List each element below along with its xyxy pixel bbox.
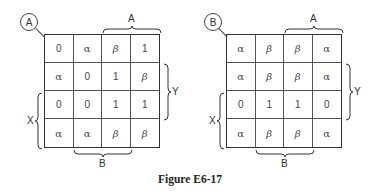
- kmap-cell: β: [284, 63, 313, 91]
- map-a-top-label: A: [128, 13, 135, 24]
- kmap-cell: α: [313, 35, 342, 63]
- kmap-cell: 0: [74, 63, 103, 91]
- kmap-cell: 0: [227, 91, 256, 119]
- map-a-right-brace: [163, 63, 171, 121]
- kmap-cell: β: [256, 119, 285, 147]
- kmap-cell: 1: [131, 91, 160, 119]
- map-b-top-label: A: [310, 13, 317, 24]
- map-b-grid: αββααββα0110αββα: [226, 34, 342, 148]
- kmap-cell: β: [102, 119, 131, 147]
- kmap-cell: β: [284, 35, 313, 63]
- map-a-left-brace: [35, 92, 43, 150]
- map-b-right-label: Y: [354, 86, 361, 97]
- kmap-cell: β: [256, 63, 285, 91]
- map-a-top-brace: [102, 26, 162, 34]
- kmap-cell: 1: [102, 63, 131, 91]
- kmap-cell: α: [45, 63, 74, 91]
- map-a-bottom-label: B: [99, 158, 106, 169]
- kmap-cell: 0: [74, 91, 103, 119]
- kmap-cell: α: [313, 63, 342, 91]
- map-a-left-label: X: [27, 115, 34, 126]
- map-a-bottom-brace: [73, 149, 133, 157]
- map-b-left-brace: [217, 92, 225, 150]
- kmap-cell: α: [227, 63, 256, 91]
- kmap-cell: 1: [102, 91, 131, 119]
- kmap-cell: β: [131, 119, 160, 147]
- map-b-right-brace: [345, 63, 353, 121]
- kmap-cell: 0: [313, 91, 342, 119]
- kmap-cell: α: [45, 119, 74, 147]
- kmap-cell: 0: [45, 91, 74, 119]
- figure-caption: Figure E6-17: [0, 173, 380, 185]
- kmap-cell: α: [74, 119, 103, 147]
- map-a-right-label: Y: [172, 86, 179, 97]
- kmap-cell: 1: [256, 91, 285, 119]
- map-b-bottom-brace: [255, 149, 315, 157]
- map-b-top-brace: [284, 26, 344, 34]
- kmap-cell: α: [313, 119, 342, 147]
- kmap-cell: β: [131, 63, 160, 91]
- kmap-cell: 1: [284, 91, 313, 119]
- kmap-cell: β: [256, 35, 285, 63]
- kmap-cell: α: [227, 35, 256, 63]
- map-b-left-label: X: [209, 115, 216, 126]
- kmap-cell: 0: [45, 35, 74, 63]
- kmap-cell: β: [102, 35, 131, 63]
- map-a-grid: 0αβ1α01β0011ααββ: [44, 34, 160, 148]
- kmap-cell: β: [284, 119, 313, 147]
- kmap-cell: α: [227, 119, 256, 147]
- kmap-cell: 1: [131, 35, 160, 63]
- map-b-bottom-label: B: [281, 158, 288, 169]
- kmap-cell: α: [74, 35, 103, 63]
